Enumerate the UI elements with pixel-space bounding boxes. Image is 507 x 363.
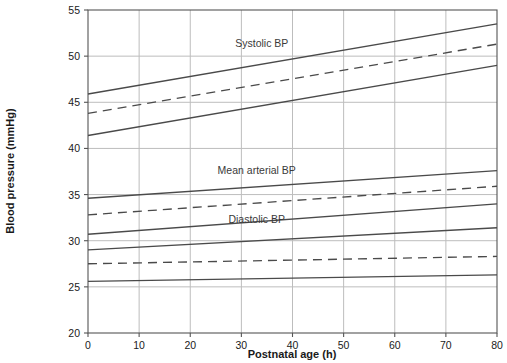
y-tick-label: 35 bbox=[68, 189, 80, 201]
y-axis-title: Blood pressure (mmHg) bbox=[4, 108, 16, 234]
y-tick-label: 25 bbox=[68, 281, 80, 293]
series-annotation-label: Mean arterial BP bbox=[218, 164, 296, 176]
x-tick-label: 20 bbox=[184, 339, 196, 351]
x-tick-label: 80 bbox=[491, 339, 503, 351]
x-tick-label: 60 bbox=[389, 339, 401, 351]
x-tick-label: 0 bbox=[85, 339, 91, 351]
x-tick-label: 50 bbox=[338, 339, 350, 351]
y-tick-label: 20 bbox=[68, 327, 80, 339]
chart-canvas: 010203040506070802025303540455055 Systol… bbox=[0, 0, 507, 363]
series-annotation-label: Diastolic BP bbox=[228, 213, 285, 225]
y-tick-label: 55 bbox=[68, 4, 80, 16]
y-tick-label: 40 bbox=[68, 142, 80, 154]
y-tick-label: 50 bbox=[68, 50, 80, 62]
y-tick-label: 45 bbox=[68, 96, 80, 108]
x-tick-label: 10 bbox=[133, 339, 145, 351]
x-tick-label: 70 bbox=[440, 339, 452, 351]
blood-pressure-chart: 010203040506070802025303540455055 Systol… bbox=[0, 0, 507, 363]
series-annotation-label: Systolic BP bbox=[235, 37, 288, 49]
x-axis-title: Postnatal age (h) bbox=[248, 348, 337, 360]
x-tick-label: 30 bbox=[236, 339, 248, 351]
y-tick-label: 30 bbox=[68, 235, 80, 247]
